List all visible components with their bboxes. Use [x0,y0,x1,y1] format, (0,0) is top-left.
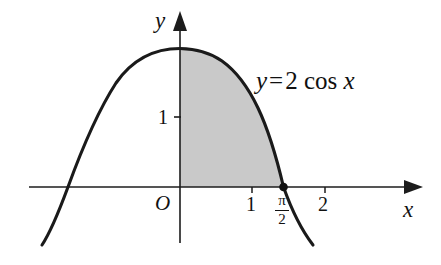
x-tick-label-2: 2 [318,194,328,214]
equation-lhs: y [256,67,267,94]
graph-figure: y x O 1 1 π 2 2 y=2 cos x [0,0,441,265]
plot-canvas [0,0,441,265]
x-tick-label-pi-over-2: π 2 [269,193,295,228]
equation-function: cos [304,67,337,94]
x-axis-label: x [403,198,413,221]
y-axis-label: y [155,9,165,32]
fraction-denominator: 2 [269,212,295,228]
curve-equation-label: y=2 cos x [256,68,355,93]
x-axis-arrowhead [404,180,423,194]
fraction-numerator: π [269,193,295,209]
marked-point-pi-over-2 [279,183,288,192]
y-tick-label-1: 1 [158,107,168,127]
equation-coefficient: 2 [285,67,298,94]
x-tick-label-1: 1 [246,194,256,214]
equation-equals: = [267,67,285,94]
y-axis-arrowhead [173,11,187,31]
origin-label: O [155,193,170,214]
equation-variable: x [344,67,355,94]
